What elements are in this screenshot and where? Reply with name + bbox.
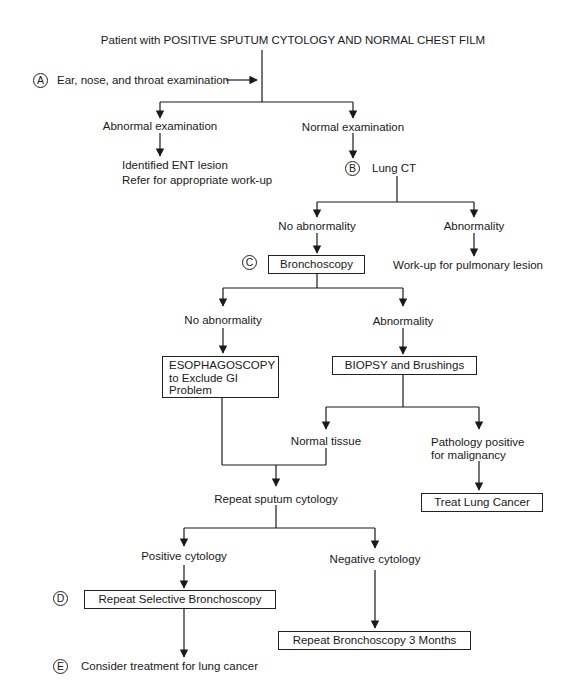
step-marker-d: D	[53, 591, 68, 606]
title-node: Patient with POSITIVE SPUTUM CYTOLOGY AN…	[101, 34, 485, 47]
flowchart-connectors	[0, 0, 587, 690]
esophagoscopy-line1: ESOPHAGOSCOPY	[169, 359, 272, 372]
esophagoscopy-box: ESOPHAGOSCOPY to Exclude GI Problem	[162, 356, 279, 398]
negative-cytology-node: Negative cytology	[330, 553, 421, 566]
step-marker-e: E	[53, 659, 68, 674]
positive-cytology-node: Positive cytology	[141, 550, 227, 563]
abnormal-exam-node: Abnormal examination	[103, 120, 217, 133]
ent-exam-label: Ear, nose, and throat examination	[57, 74, 229, 87]
ent-lesion-line2: Refer for appropriate work-up	[122, 174, 272, 187]
repeat-bronch-3mo-box: Repeat Bronchoscopy 3 Months	[278, 631, 471, 650]
repeat-selective-bronch-box: Repeat Selective Bronchoscopy	[84, 590, 276, 609]
lung-ct-node: Lung CT	[372, 162, 416, 175]
ct-no-abnormality-node: No abnormality	[278, 220, 355, 233]
ent-lesion-line1: Identified ENT lesion	[122, 159, 228, 172]
normal-exam-node: Normal examination	[302, 121, 404, 134]
treat-lung-cancer-box: Treat Lung Cancer	[421, 493, 543, 512]
bronch-no-abnormality-node: No abnormality	[184, 314, 261, 327]
normal-tissue-node: Normal tissue	[291, 435, 361, 448]
repeat-sputum-node: Repeat sputum cytology	[214, 493, 337, 506]
consider-treatment-node: Consider treatment for lung cancer	[81, 660, 258, 673]
pulmonary-workup-node: Work-up for pulmonary lesion	[393, 259, 543, 272]
biopsy-box: BIOPSY and Brushings	[332, 356, 477, 375]
ct-abnormality-node: Abnormality	[444, 220, 505, 233]
step-marker-c: C	[242, 255, 257, 270]
pathology-line2: for malignancy	[431, 449, 506, 462]
bronchoscopy-box: Bronchoscopy	[268, 255, 365, 274]
bronch-abnormality-node: Abnormality	[373, 315, 434, 328]
step-marker-a: A	[33, 73, 48, 88]
esophagoscopy-line3: Problem	[169, 384, 272, 397]
step-marker-b: B	[345, 161, 360, 176]
pathology-line1: Pathology positive	[431, 436, 524, 449]
esophagoscopy-line2: to Exclude GI	[169, 372, 272, 385]
